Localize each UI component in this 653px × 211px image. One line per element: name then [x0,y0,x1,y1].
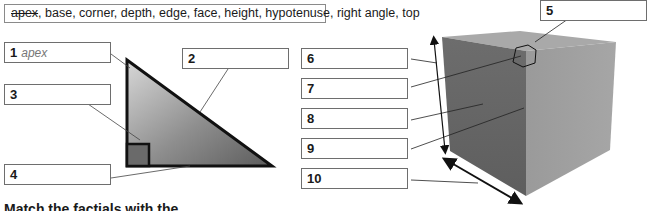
cube [442,31,616,196]
label-box-1[interactable]: 1apex [4,42,111,63]
label-box-6[interactable]: 6 [301,48,408,69]
label-box-3[interactable]: 3 [4,84,111,105]
label-answer-1: apex [21,46,47,60]
label-box-7[interactable]: 7 [301,78,408,99]
label-box-2[interactable]: 2 [182,48,289,69]
height-arrow [434,40,445,150]
label-box-4[interactable]: 4 [4,164,111,185]
right-angle-marker [127,144,149,166]
label-box-8[interactable]: 8 [301,108,408,129]
label-box-10[interactable]: 10 [301,168,408,189]
label-box-9[interactable]: 9 [301,138,408,159]
label-box-5[interactable]: 5 [540,0,647,21]
instruction-text: Match the factials with the [4,201,178,211]
right-triangle [127,60,272,166]
